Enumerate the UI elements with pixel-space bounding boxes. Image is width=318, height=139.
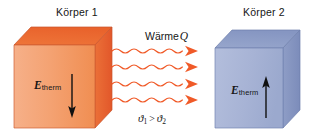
cube-right-body2 <box>215 30 300 128</box>
body2-energy-subscript: therm <box>239 88 259 97</box>
cube-left-body1 <box>14 27 112 128</box>
heat-wave-arrow-2 <box>112 62 198 72</box>
body1-energy-subscript: therm <box>42 83 62 92</box>
temperature-right-subscript: 2 <box>162 117 166 126</box>
body1-energy-symbol: E <box>34 79 42 91</box>
body1-thermal-energy-label: Etherm <box>34 79 61 92</box>
body2-thermal-energy-label: Etherm <box>231 84 258 97</box>
heat-wave-arrow-4 <box>112 95 198 105</box>
body2-energy-symbol: E <box>231 84 239 96</box>
heat-flow-label: WärmeQ <box>145 30 188 42</box>
temperature-relation-label: ϑ1>ϑ2 <box>138 112 166 126</box>
temperature-relation-operator: > <box>147 113 157 124</box>
heat-flow-label-text: Wärme <box>145 30 179 42</box>
heat-transfer-diagram: Körper 1 Körper 2 WärmeQ Etherm Etherm ϑ… <box>0 0 318 139</box>
cube-left-side-face <box>95 27 112 128</box>
body2-title: Körper 2 <box>243 6 285 18</box>
body1-title: Körper 1 <box>56 6 98 18</box>
heat-wave-arrow-1 <box>112 46 198 56</box>
heat-wave-arrow-3 <box>112 79 198 89</box>
heat-flow-symbol: Q <box>179 30 188 42</box>
heat-wave-arrows <box>112 46 198 105</box>
